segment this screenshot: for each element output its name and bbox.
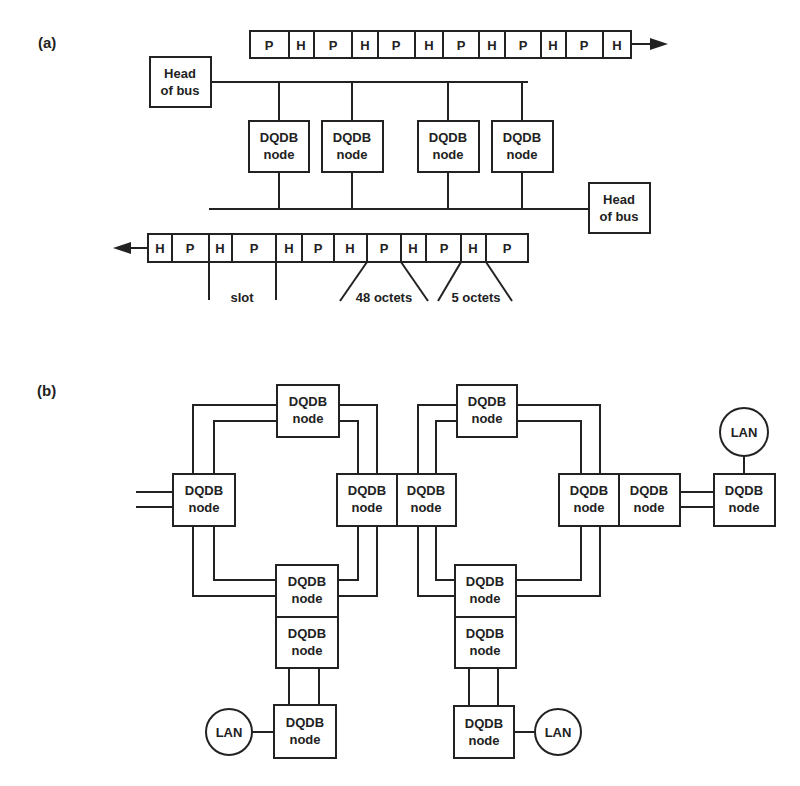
arrow-left-icon [113,242,131,254]
svg-text:node: node [469,643,500,658]
cell: H [296,38,305,53]
cell: P [392,38,401,53]
dqdb-node: DQDB node [418,121,479,172]
svg-text:node: node [263,147,294,162]
dqdb-node: DQDB node [337,474,397,526]
svg-text:node: node [291,643,322,658]
svg-text:DQDB: DQDB [288,574,326,589]
svg-text:DQDB: DQDB [570,483,608,498]
svg-text:of bus: of bus [600,209,639,224]
dqdb-node: DQDB node [455,617,516,668]
svg-text:DQDB: DQDB [725,483,763,498]
cell: P [265,38,274,53]
panel-a-label: (a) [38,34,56,51]
bottom-bus-slot-stream: H P H P H P H P H P H P [113,234,528,262]
svg-text:DQDB: DQDB [289,394,327,409]
svg-text:node: node [573,500,604,515]
header-size-label: 5 octets [451,290,500,305]
svg-text:DQDB: DQDB [466,574,504,589]
cell: H [345,241,354,256]
svg-text:DQDB: DQDB [468,394,506,409]
cell: P [329,38,338,53]
cell: P [380,241,389,256]
cell: H [408,241,417,256]
dqdb-node: DQDB node [397,474,456,526]
dqdb-node: DQDB node [276,565,338,617]
cell: H [487,38,496,53]
svg-text:of bus: of bus [161,83,200,98]
cell: P [186,241,195,256]
panel-b-label: (b) [37,382,56,399]
svg-text:DQDB: DQDB [348,483,386,498]
svg-text:Head: Head [603,192,635,207]
lan-circle: LAN [535,709,581,755]
svg-text:node: node [292,411,323,426]
svg-text:DQDB: DQDB [466,626,504,641]
dqdb-node: DQDB node [559,474,619,526]
svg-text:DQDB: DQDB [503,130,541,145]
svg-text:node: node [469,591,500,606]
cell: H [612,38,621,53]
arrow-right-icon [650,38,668,50]
cell: H [424,38,433,53]
svg-text:DQDB: DQDB [288,626,326,641]
svg-text:node: node [506,147,537,162]
svg-text:node: node [291,591,322,606]
svg-text:DQDB: DQDB [286,715,324,730]
svg-text:Head: Head [164,66,196,81]
svg-text:node: node [410,500,441,515]
payload-size-label: 48 octets [356,290,412,305]
dqdb-node: DQDB node [274,705,336,758]
cell: H [155,241,164,256]
svg-text:DQDB: DQDB [333,130,371,145]
svg-text:LAN: LAN [545,725,572,740]
cell: P [440,241,449,256]
svg-text:node: node [633,500,664,515]
svg-text:DQDB: DQDB [185,483,223,498]
cell: P [519,38,528,53]
svg-text:DQDB: DQDB [260,130,298,145]
lan-circle: LAN [720,408,768,456]
cell: H [468,241,477,256]
head-of-bus-right: Head of bus [589,183,650,233]
dqdb-node: DQDB node [619,474,680,526]
svg-text:node: node [188,500,219,515]
svg-text:LAN: LAN [731,425,758,440]
dqdb-diagram: (a) P H P H P H P H P H P H Head of bus [0,0,800,786]
top-bus-slot-stream: P H P H P H P H P H P H [250,31,668,58]
cell: H [360,38,369,53]
dqdb-node: DQDB node [322,121,383,172]
dqdb-node: DQDB node [714,474,775,526]
slot-label: slot [230,290,254,305]
svg-text:node: node [336,147,367,162]
svg-text:node: node [471,411,502,426]
svg-text:node: node [289,732,320,747]
dqdb-node: DQDB node [492,121,553,172]
svg-text:node: node [432,147,463,162]
dqdb-node: DQDB node [277,385,339,437]
cell: P [580,38,589,53]
svg-text:DQDB: DQDB [630,483,668,498]
head-of-bus-left: Head of bus [150,57,211,107]
dqdb-node: DQDB node [457,385,517,437]
dqdb-node: DQDB node [276,617,338,668]
svg-text:DQDB: DQDB [429,130,467,145]
lan-circle: LAN [206,709,252,755]
cell: P [314,241,323,256]
cell: H [284,241,293,256]
dqdb-node: DQDB node [454,706,514,758]
dqdb-node: DQDB node [249,121,309,172]
cell: H [548,38,557,53]
svg-text:LAN: LAN [216,725,243,740]
cell: P [250,241,259,256]
dqdb-node: DQDB node [173,474,235,526]
svg-text:node: node [728,500,759,515]
svg-text:DQDB: DQDB [407,483,445,498]
cell: H [215,241,224,256]
svg-text:node: node [351,500,382,515]
cell: P [457,38,466,53]
cell: P [503,241,512,256]
svg-text:DQDB: DQDB [465,716,503,731]
svg-text:node: node [468,733,499,748]
dqdb-node: DQDB node [455,565,516,617]
